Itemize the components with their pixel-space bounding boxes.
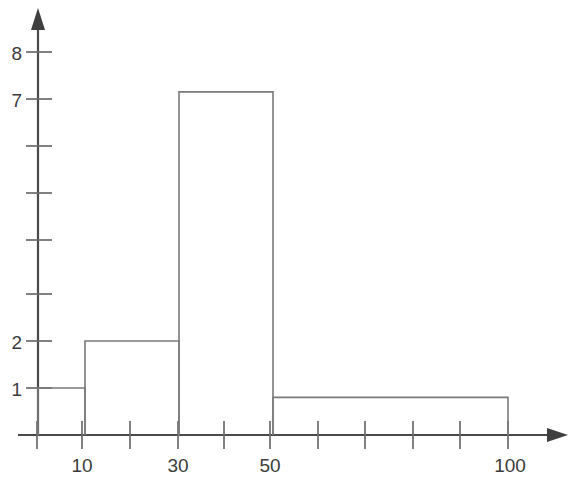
histogram-bars [38, 92, 508, 435]
histogram-bar [85, 341, 179, 435]
x-axis-arrowhead [547, 428, 568, 442]
histogram-bar [273, 397, 508, 435]
x-tick-label-100: 100 [494, 455, 526, 476]
x-tick-label-10: 10 [71, 455, 92, 476]
y-tick-label-1: 1 [11, 379, 22, 400]
y-tick-label-2: 2 [11, 332, 22, 353]
x-axis-group [18, 428, 568, 442]
y-axis-arrowhead [31, 8, 45, 30]
y-axis-group [31, 8, 45, 435]
histogram-bar [179, 92, 273, 435]
x-tick-label-30: 30 [167, 455, 188, 476]
x-tick-labels: 10 30 50 100 [71, 455, 525, 476]
y-tick-labels: 8 7 2 1 [11, 43, 22, 400]
y-tick-label-7: 7 [11, 90, 22, 111]
y-tick-label-8: 8 [11, 43, 22, 64]
histogram-bar [38, 388, 85, 435]
histogram-canvas: 8 7 2 1 10 30 50 100 [0, 0, 575, 477]
histogram-figure: 8 7 2 1 10 30 50 100 [0, 0, 575, 477]
x-tick-label-50: 50 [259, 455, 280, 476]
